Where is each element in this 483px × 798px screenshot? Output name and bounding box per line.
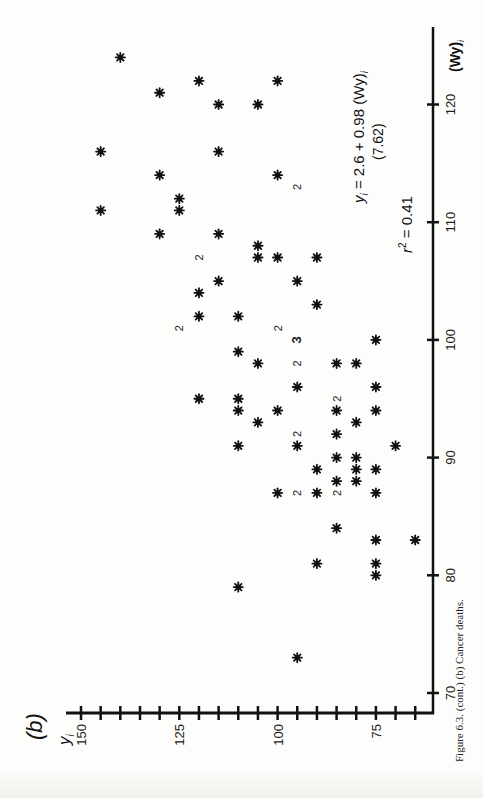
asterisk-marker: [273, 406, 282, 415]
asterisk-marker: [352, 477, 361, 486]
asterisk-marker: [234, 347, 243, 356]
y-tick-label: 100: [271, 724, 286, 746]
asterisk-marker: [371, 559, 380, 568]
asterisk-marker: [253, 241, 262, 250]
asterisk-marker: [332, 453, 341, 462]
asterisk-marker: [312, 300, 321, 309]
asterisk-marker: [273, 171, 282, 180]
y-axis-label: yi: [55, 734, 76, 745]
asterisk-marker: [312, 253, 321, 262]
scatter-plot: 15012510075708090100110120 2222322222: [0, 0, 483, 798]
asterisk-marker: [273, 253, 282, 262]
asterisk-marker: [391, 441, 400, 450]
asterisk-marker: [312, 559, 321, 568]
x-axis-label: (Wy)i: [447, 40, 466, 72]
asterisk-marker: [371, 488, 380, 497]
asterisk-marker: [96, 147, 105, 156]
asterisk-marker: [293, 276, 302, 285]
asterisk-marker: [273, 488, 282, 497]
asterisk-marker: [293, 653, 302, 662]
asterisk-marker: [332, 359, 341, 368]
asterisk-marker: [194, 312, 203, 321]
asterisk-marker: [273, 76, 282, 85]
asterisk-marker: [293, 441, 302, 450]
count-label: 2: [291, 431, 303, 437]
panel-label: (b): [22, 713, 48, 740]
count-label: 2: [193, 254, 205, 260]
x-tick-label: 120: [443, 94, 458, 116]
asterisk-marker: [116, 53, 125, 62]
asterisk-marker: [352, 418, 361, 427]
count-label: 2: [331, 490, 343, 496]
count-label: 2: [291, 360, 303, 366]
asterisk-marker: [194, 76, 203, 85]
count-label: 3: [289, 336, 304, 343]
asterisk-marker: [332, 524, 341, 533]
figure-caption: Figure 6.3. (cont.) (b) Cancer deaths.: [453, 599, 465, 762]
asterisk-marker: [371, 465, 380, 474]
count-label: 2: [331, 396, 343, 402]
asterisk-marker: [214, 147, 223, 156]
y-tick-label: 75: [369, 724, 384, 738]
asterisk-marker: [332, 406, 341, 415]
count-label: 2: [291, 184, 303, 190]
x-tick-label: 100: [443, 329, 458, 351]
asterisk-marker: [155, 88, 164, 97]
asterisk-marker: [214, 276, 223, 285]
asterisk-marker: [371, 335, 380, 344]
asterisk-marker: [234, 394, 243, 403]
regression-equation: yi = 2.6 + 0.98 (Wy)i: [350, 71, 370, 203]
x-tick-label: 90: [443, 450, 458, 464]
asterisk-marker: [332, 429, 341, 438]
asterisk-marker: [352, 359, 361, 368]
asterisk-marker: [214, 229, 223, 238]
count-label: 2: [291, 490, 303, 496]
asterisk-marker: [253, 100, 262, 109]
asterisk-marker: [312, 488, 321, 497]
asterisk-marker: [332, 477, 341, 486]
asterisk-marker: [234, 312, 243, 321]
asterisk-marker: [253, 418, 262, 427]
r-squared: r2 = 0.41: [397, 196, 415, 253]
count-label: 2: [272, 325, 284, 331]
x-tick-label: 110: [443, 212, 458, 233]
asterisk-marker: [371, 571, 380, 580]
asterisk-marker: [234, 406, 243, 415]
asterisk-marker: [214, 100, 223, 109]
asterisk-marker: [371, 406, 380, 415]
asterisk-marker: [194, 394, 203, 403]
asterisk-marker: [352, 453, 361, 462]
asterisk-marker: [293, 382, 302, 391]
asterisk-marker: [371, 535, 380, 544]
asterisk-marker: [155, 229, 164, 238]
asterisk-marker: [234, 582, 243, 591]
count-label: 2: [173, 325, 185, 331]
asterisk-marker: [371, 382, 380, 391]
asterisk-marker: [175, 206, 184, 215]
asterisk-marker: [194, 288, 203, 297]
slope-t-stat: (7.62): [370, 123, 386, 160]
asterisk-marker: [234, 441, 243, 450]
asterisk-marker: [175, 194, 184, 203]
asterisk-marker: [253, 359, 262, 368]
asterisk-marker: [352, 465, 361, 474]
asterisk-marker: [411, 535, 420, 544]
asterisk-marker: [155, 171, 164, 180]
asterisk-marker: [312, 465, 321, 474]
asterisk-marker: [253, 253, 262, 262]
y-tick-label: 125: [172, 724, 187, 746]
asterisk-marker: [96, 206, 105, 215]
x-tick-label: 80: [443, 568, 458, 582]
axes: 15012510075708090100110120: [66, 27, 458, 746]
